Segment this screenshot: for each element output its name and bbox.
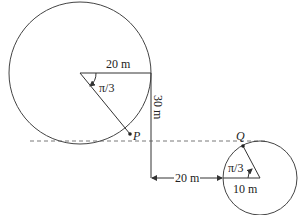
vertical-distance-label: 30 m	[151, 95, 165, 120]
large-angle-arc	[90, 73, 96, 86]
large-circle	[9, 2, 151, 144]
horizontal-distance-label: 20 m	[175, 171, 200, 185]
small-angle-label: π/3	[228, 161, 243, 175]
large-angle-label: π/3	[99, 81, 114, 95]
point-q-dot	[241, 144, 245, 148]
small-radius-to-q	[243, 146, 260, 178]
small-angle-arc	[248, 169, 252, 178]
large-radius-label: 20 m	[106, 57, 131, 71]
small-radius-label: 10 m	[233, 182, 258, 196]
point-p-dot	[128, 132, 132, 136]
point-q-label: Q	[236, 129, 245, 143]
diagram: 20 m π/3 P 30 m 20 m π/3 10 m Q	[0, 0, 299, 215]
small-circle	[223, 141, 297, 215]
